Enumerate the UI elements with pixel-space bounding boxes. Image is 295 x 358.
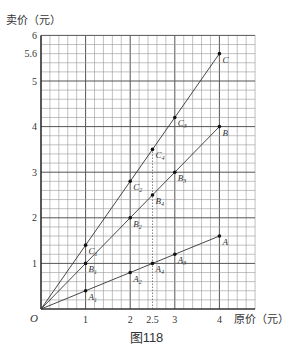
point-C2: [128, 180, 132, 184]
grid: [41, 35, 255, 309]
point-label: B2: [133, 219, 142, 230]
x-tick-label: 2.5: [146, 314, 159, 325]
point-label: A4: [155, 264, 165, 275]
point-label: C4: [156, 150, 165, 161]
point-label: C1: [89, 246, 98, 257]
point-B4: [151, 193, 155, 197]
point-A3: [173, 252, 177, 256]
y-tick-label: 2: [32, 212, 37, 223]
point-C4: [151, 148, 155, 152]
point-label: A: [221, 237, 228, 247]
origin-label: O: [30, 312, 38, 324]
point-C3: [173, 116, 177, 120]
point-A1: [84, 289, 88, 293]
x-tick-label: 3: [172, 314, 177, 325]
point-label: A2: [132, 274, 142, 285]
point-label: A1: [88, 292, 98, 303]
y-tick-label: 4: [32, 121, 37, 132]
point-label: C: [222, 55, 229, 65]
point-B1: [84, 262, 88, 266]
caption-text: 图118: [130, 330, 164, 345]
y-axis-label: 卖价（元）: [6, 14, 61, 26]
y-tick-label: 5.6: [25, 48, 38, 59]
point-B: [218, 125, 222, 129]
point-B2: [128, 216, 132, 220]
x-axis-label: 原价（元）: [234, 313, 289, 325]
point-label: B: [222, 128, 228, 138]
point-A4: [151, 262, 155, 266]
point-A: [218, 234, 222, 238]
point-C: [218, 52, 222, 56]
price-chart: A1A2A4A3AB1B2B4B3BC1C2C4C3C 122.53412345…: [0, 0, 295, 358]
point-B3: [173, 170, 177, 174]
point-label: C3: [178, 118, 187, 129]
point-label: B4: [156, 196, 165, 207]
x-tick-label: 1: [83, 314, 88, 325]
figure-caption: 图118: [0, 327, 295, 346]
point-label: A3: [177, 255, 187, 266]
tick-labels: 122.534123455.66: [25, 30, 222, 325]
x-tick-label: 2: [128, 314, 133, 325]
y-tick-label: 5: [32, 76, 37, 87]
point-label: B3: [178, 173, 187, 184]
point-A2: [128, 271, 132, 275]
point-C1: [84, 243, 88, 247]
point-label: C2: [133, 182, 142, 193]
y-tick-label: 1: [32, 258, 37, 269]
y-tick-label: 6: [32, 30, 37, 41]
data-points: A1A2A4A3AB1B2B4B3BC1C2C4C3C: [84, 52, 230, 303]
y-tick-label: 3: [32, 167, 37, 178]
x-tick-label: 4: [217, 314, 222, 325]
point-label: B1: [89, 264, 98, 275]
